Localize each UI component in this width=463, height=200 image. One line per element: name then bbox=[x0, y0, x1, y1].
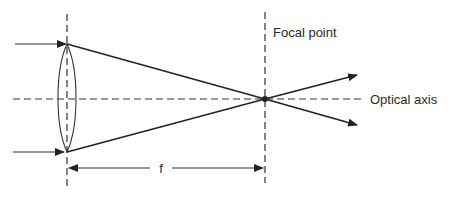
focal-length-label: f bbox=[159, 161, 163, 176]
lens-diagram: f Focal point Optical axis bbox=[0, 0, 463, 200]
refracted-ray-bottom bbox=[67, 99, 265, 152]
optical-axis-label: Optical axis bbox=[370, 92, 438, 107]
focal-point-dot bbox=[262, 96, 268, 102]
outgoing-ray-up bbox=[265, 75, 357, 99]
refracted-ray-top bbox=[67, 44, 265, 99]
outgoing-ray-down bbox=[265, 99, 357, 125]
focal-point-label: Focal point bbox=[273, 25, 337, 40]
